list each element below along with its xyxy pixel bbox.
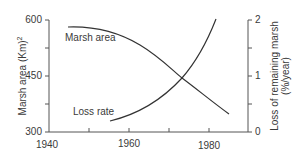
y2-tick-0: 0 bbox=[255, 126, 261, 137]
x-tick-1960: 1960 bbox=[118, 138, 141, 149]
y-axis-left-title: Marsh area (Km)2 bbox=[16, 36, 28, 115]
loss-rate-label: Loss rate bbox=[73, 106, 115, 117]
y2-tick-2: 2 bbox=[255, 14, 261, 25]
y2-tick-1: 1 bbox=[255, 70, 261, 81]
x-tick-1980: 1980 bbox=[198, 140, 221, 151]
y-tick-300: 300 bbox=[25, 126, 42, 137]
chart-svg: 600 450 300 2 1 0 1940 1960 1980 Marsh a… bbox=[0, 0, 302, 162]
marsh-area-label: Marsh area bbox=[65, 32, 116, 43]
loss-rate-line bbox=[110, 19, 216, 121]
y-axis-right-title-line1: Loss of remaining marsh bbox=[269, 21, 280, 131]
x-tick-1940: 1940 bbox=[36, 139, 59, 150]
y-tick-600: 600 bbox=[25, 14, 42, 25]
y-axis-right-title-line2: (%/year) bbox=[280, 57, 291, 95]
chart: 600 450 300 2 1 0 1940 1960 1980 Marsh a… bbox=[0, 0, 302, 162]
